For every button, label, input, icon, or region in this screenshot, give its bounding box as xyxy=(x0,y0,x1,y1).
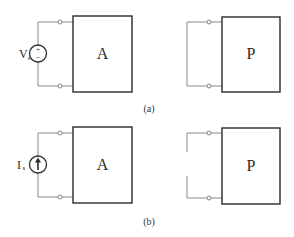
terminal-top xyxy=(207,20,211,24)
terminal-top xyxy=(58,20,62,24)
terminal-top xyxy=(58,131,62,135)
source-label: Is xyxy=(17,158,26,172)
terminal-bottom xyxy=(58,84,62,88)
terminal-top xyxy=(207,131,211,135)
terminal-bottom xyxy=(58,195,62,199)
source-label: Vs xyxy=(19,47,31,62)
panel-a-left-circuit: + − Vs A xyxy=(19,16,132,92)
circuit-diagram: + − Vs A P (a) Is A xyxy=(0,0,294,237)
network-p-label: P xyxy=(247,157,256,174)
panel-b-right-circuit: P xyxy=(187,128,280,204)
voltage-source-icon: + − xyxy=(30,45,47,62)
caption-b: (b) xyxy=(143,216,155,228)
panel-b-left-circuit: Is A xyxy=(17,127,132,203)
network-a-label: A xyxy=(97,45,109,62)
terminal-bottom xyxy=(207,196,211,200)
network-a-label: A xyxy=(97,156,109,173)
caption-a: (a) xyxy=(143,103,154,115)
terminal-bottom xyxy=(207,84,211,88)
current-source-icon xyxy=(30,156,47,173)
panel-a-right-circuit: P xyxy=(187,17,280,92)
network-p-label: P xyxy=(247,45,256,62)
minus-sign: − xyxy=(36,53,41,62)
